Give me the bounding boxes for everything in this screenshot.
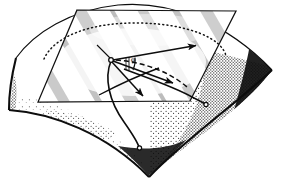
tangency-point bbox=[109, 58, 114, 63]
angle-phi-label: φ bbox=[131, 56, 135, 64]
surface-curve-right-endpoint bbox=[204, 102, 208, 106]
geometry-diagram-svg bbox=[0, 0, 283, 191]
surface-curve-left-endpoint bbox=[137, 146, 141, 150]
figure-canvas: φ bbox=[0, 0, 283, 191]
